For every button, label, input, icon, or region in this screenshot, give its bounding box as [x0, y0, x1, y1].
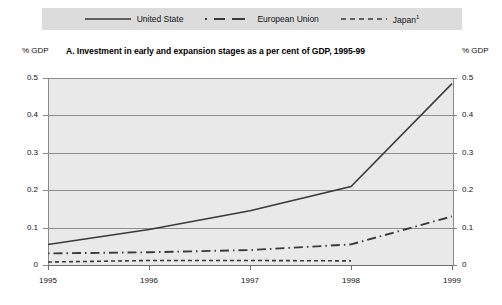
y-tick-label: 0.1 — [462, 223, 488, 232]
series-line-united-state — [48, 84, 452, 245]
x-tick-label: 1995 — [28, 276, 68, 285]
x-tick-label: 1999 — [432, 276, 472, 285]
x-tick-mark — [452, 265, 453, 270]
series-line-japan — [48, 261, 351, 263]
y-tick-label: 0 — [12, 260, 38, 269]
y-tick-mark — [452, 153, 457, 154]
y-tick-label: 0.3 — [462, 148, 488, 157]
y-tick-label: 0.2 — [12, 185, 38, 194]
x-tick-mark — [351, 265, 352, 270]
y-tick-label: 0.1 — [12, 223, 38, 232]
x-tick-mark — [48, 265, 49, 270]
y-tick-mark — [452, 78, 457, 79]
x-tick-label: 1996 — [129, 276, 169, 285]
y-tick-label: 0.5 — [12, 73, 38, 82]
y-tick-mark — [452, 228, 457, 229]
y-tick-label: 0.4 — [462, 110, 488, 119]
x-tick-mark — [149, 265, 150, 270]
series-lines — [48, 78, 452, 265]
x-tick-label: 1997 — [230, 276, 270, 285]
chart-plot: 00.10.20.30.40.5 00.10.20.30.40.5 199519… — [0, 0, 502, 305]
y-tick-label: 0.5 — [462, 73, 488, 82]
x-tick-mark — [250, 265, 251, 270]
x-tick-label: 1998 — [331, 276, 371, 285]
y-tick-label: 0 — [462, 260, 488, 269]
y-tick-label: 0.4 — [12, 110, 38, 119]
y-tick-label: 0.3 — [12, 148, 38, 157]
y-tick-mark — [452, 190, 457, 191]
y-tick-label: 0.2 — [462, 185, 488, 194]
y-tick-mark — [452, 115, 457, 116]
